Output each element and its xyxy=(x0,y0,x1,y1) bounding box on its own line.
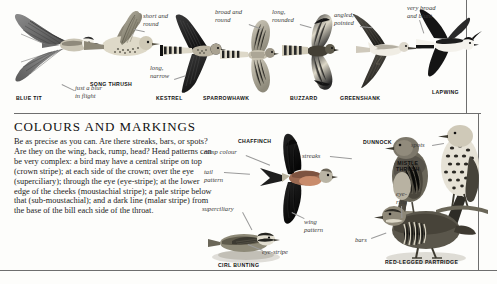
annotation-spots: spots xyxy=(411,141,425,149)
annotation-very-broad-and-blunt: very broad and blunt xyxy=(407,4,436,19)
annotation-angled-pointed: angled, pointed xyxy=(334,11,354,26)
bird-illustration-lapwing xyxy=(400,8,482,84)
annotation-long-rounded: long, rounded xyxy=(272,8,294,23)
annotation-eye-ring: eye- ring xyxy=(396,190,407,205)
bird-illustration-cirl-bunting xyxy=(208,215,284,263)
species-label-lapwing: LAPWING xyxy=(432,89,459,95)
leader-just-a-blur xyxy=(62,84,75,91)
annotation-eye-stripe: eye-stripe xyxy=(262,248,288,256)
species-label-cirl-bunting: CIRL BUNTING xyxy=(218,262,259,268)
species-label-song-thrush: SONG THRUSH xyxy=(90,81,132,87)
annotation-wing-pattern: wing pattern xyxy=(304,218,323,233)
species-label-mistle-thrush: MISTLE THRUSH xyxy=(396,160,420,173)
annotation-tail-pattern: tail pattern xyxy=(204,168,223,183)
species-label-blue-tit: BLUE TIT xyxy=(16,95,42,101)
annotation-streaks: streaks xyxy=(302,152,320,160)
annotation-superciliary: superciliary xyxy=(202,205,234,213)
species-label-chaffinch: CHAFFINCH xyxy=(238,138,271,144)
leader-tail-pattern xyxy=(224,172,250,175)
divider-bottom xyxy=(0,270,497,271)
species-label-dunnock: DUNNOCK xyxy=(363,139,392,145)
annotation-bars: bars xyxy=(355,236,367,244)
species-label-kestrel: KESTREL xyxy=(156,95,183,101)
page-title: COLOURS AND MARKINGS xyxy=(14,119,212,135)
species-label-sparrowhawk: SPARROWHAWK xyxy=(203,95,249,101)
annotation-broad-and-round: broad and round xyxy=(215,8,242,23)
divider-top xyxy=(14,113,481,114)
text-block: COLOURS AND MARKINGS Be as precise as yo… xyxy=(14,119,212,216)
book-page: short and round just a blur in flight lo… xyxy=(0,0,497,284)
species-label-greenshank: GREENSHANK xyxy=(340,95,380,101)
body-paragraph: Be as precise as you can. Are there stre… xyxy=(14,137,212,216)
annotation-rump-colour: rump colour xyxy=(204,148,237,156)
species-label-red-legged-partridge: RED-LEGGED PARTRIDGE xyxy=(385,259,458,265)
annotation-short-and-round: short and round xyxy=(143,12,168,27)
annotation-long-narrow: long, narrow xyxy=(150,64,169,79)
species-label-buzzard: BUZZARD xyxy=(290,95,318,101)
